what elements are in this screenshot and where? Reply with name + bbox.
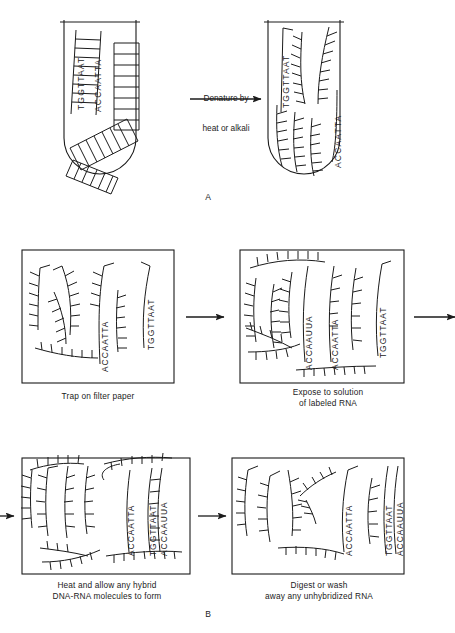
sequence-text: ACCAATTA (100, 321, 110, 372)
panel-a-letter: A (198, 192, 218, 202)
box-hybridize-sequence-1: ACCAATTA (126, 505, 136, 556)
box-trap-sequence-1: ACCAATTA (100, 321, 110, 372)
box-hybridize-sequence-2: TGGTTAAT (148, 505, 158, 556)
caption-expose: Expose to solution of labeled RNA (254, 387, 402, 408)
sequence-text: ACCAATTA (333, 115, 343, 168)
sequence-text: ACCAAUUA (304, 315, 314, 370)
caption-hybridize: Heat and allow any hybrid DNA-RNA molecu… (24, 580, 190, 601)
box-expose-sequence-dna-1: ACCAATTA (330, 319, 340, 370)
sequence-text: ACCAAUUA (159, 501, 169, 556)
box-expose-sequence-dna-2: TGGTTAAT (378, 307, 388, 358)
box-digest-sequence-3: ACCAAUUA (395, 501, 405, 556)
panel-b-box-digest (232, 458, 404, 574)
right-tube-sequence-1: TGGTTAAT (281, 55, 291, 108)
left-tube-sequence-top: TGGTTAAT (76, 57, 86, 110)
right-tube-sequence-2: ACCAATTA (333, 115, 343, 168)
panel-b-letter: B (198, 609, 218, 619)
figure-root: TGGTTAAT ACCAATTA (0, 0, 455, 633)
sequence-text: TGGTTAAT (281, 55, 291, 108)
sequence-text: TGGTTAAT (76, 57, 86, 110)
sequence-text: TGGTTAAT (384, 505, 394, 556)
left-tube-sequence-bottom: ACCAATTA (93, 59, 103, 112)
box-digest-sequence-2: TGGTTAAT (384, 505, 394, 556)
sequence-text: ACCAATTA (330, 319, 340, 370)
box-expose-sequence-rna: ACCAAUUA (304, 315, 314, 370)
sequence-text: TGGTTAAT (378, 307, 388, 358)
panel-a-right-tube (264, 20, 344, 176)
sequence-text: ACCAATTA (344, 505, 354, 556)
denature-label-line1: Denature by (186, 93, 266, 104)
sequence-text: ACCAAUUA (395, 501, 405, 556)
box-hybridize-sequence-3: ACCAAUUA (159, 501, 169, 556)
box-trap-sequence-2: TGGTTAAT (146, 299, 156, 350)
denature-label: Denature by heat or alkali (186, 82, 266, 145)
sequence-text: ACCAATTA (93, 59, 103, 112)
sequence-text: TGGTTAAT (146, 299, 156, 350)
caption-trap: Trap on filter paper (28, 391, 168, 402)
box-digest-sequence-1: ACCAATTA (344, 505, 354, 556)
sequence-text: TGGTTAAT (148, 505, 158, 556)
denature-label-line2: heat or alkali (186, 123, 266, 134)
sequence-text: ACCAATTA (126, 505, 136, 556)
caption-digest: Digest or wash away any unhybridized RNA (234, 580, 404, 601)
